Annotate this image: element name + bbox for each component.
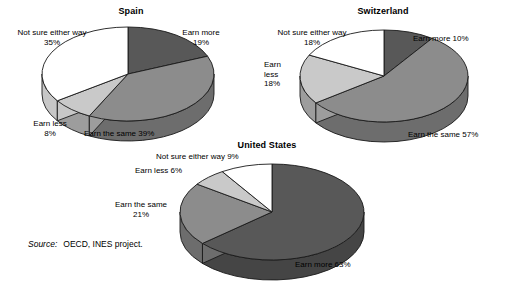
pie-chart-spain: Spain Not sure either way 35% Earn more …: [6, 6, 256, 144]
slice-label-us-earn-less: Earn less 6%: [135, 166, 225, 176]
slice-label-spain-earn-more: Earn more 19%: [158, 28, 244, 47]
pie-chart-united-states: United States Not sure either way 9% Ear…: [132, 140, 402, 280]
source-label: Source:: [28, 239, 57, 249]
pie-chart-switzerland: Switzerland Not sure either way 18% Earn…: [258, 6, 508, 144]
slice-label-us-earn-more: Earn more 63%: [295, 260, 405, 270]
figure-three-pie-charts: Spain Not sure either way 35% Earn more …: [0, 0, 514, 282]
slice-label-us-not-sure: Not sure either way 9%: [156, 152, 296, 162]
slice-label-switzerland-not-sure: Not sure either way 18%: [260, 28, 364, 47]
source-note: Source:OECD, INES project.: [28, 239, 143, 250]
slice-label-switzerland-earn-more: Earn more 10%: [413, 34, 509, 44]
slice-label-us-earn-same: Earn the same 21%: [102, 200, 180, 219]
source-text: OECD, INES project.: [63, 239, 142, 249]
slice-label-switzerland-earn-less: Earn less 18%: [264, 60, 304, 89]
slice-label-spain-earn-same: Earn the same 39%: [84, 129, 214, 139]
slice-label-spain-not-sure: Not sure either way 35%: [0, 28, 104, 47]
slice-label-switzerland-earn-same: Earn the same 57%: [408, 130, 508, 140]
slice-label-spain-earn-less: Earn less 8%: [20, 119, 80, 138]
